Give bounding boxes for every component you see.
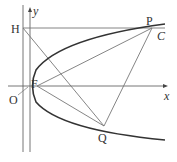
y-axis-label: y — [32, 4, 39, 18]
point-Q-label: Q — [98, 131, 107, 145]
y-axis-arrow-icon — [28, 7, 32, 12]
point-P-label: P — [146, 14, 153, 28]
curve-C-label: C — [157, 29, 166, 43]
focus-label: F — [31, 77, 38, 91]
line-FQ — [37, 86, 104, 126]
x-axis-label: x — [163, 89, 170, 103]
point-H-label: H — [11, 22, 20, 36]
line-PQ — [104, 28, 152, 126]
diagram-canvas: y x O F H P Q C — [0, 0, 177, 162]
x-axis-arrow-icon — [163, 84, 168, 88]
origin-label: O — [9, 93, 18, 107]
line-FP — [37, 28, 152, 86]
